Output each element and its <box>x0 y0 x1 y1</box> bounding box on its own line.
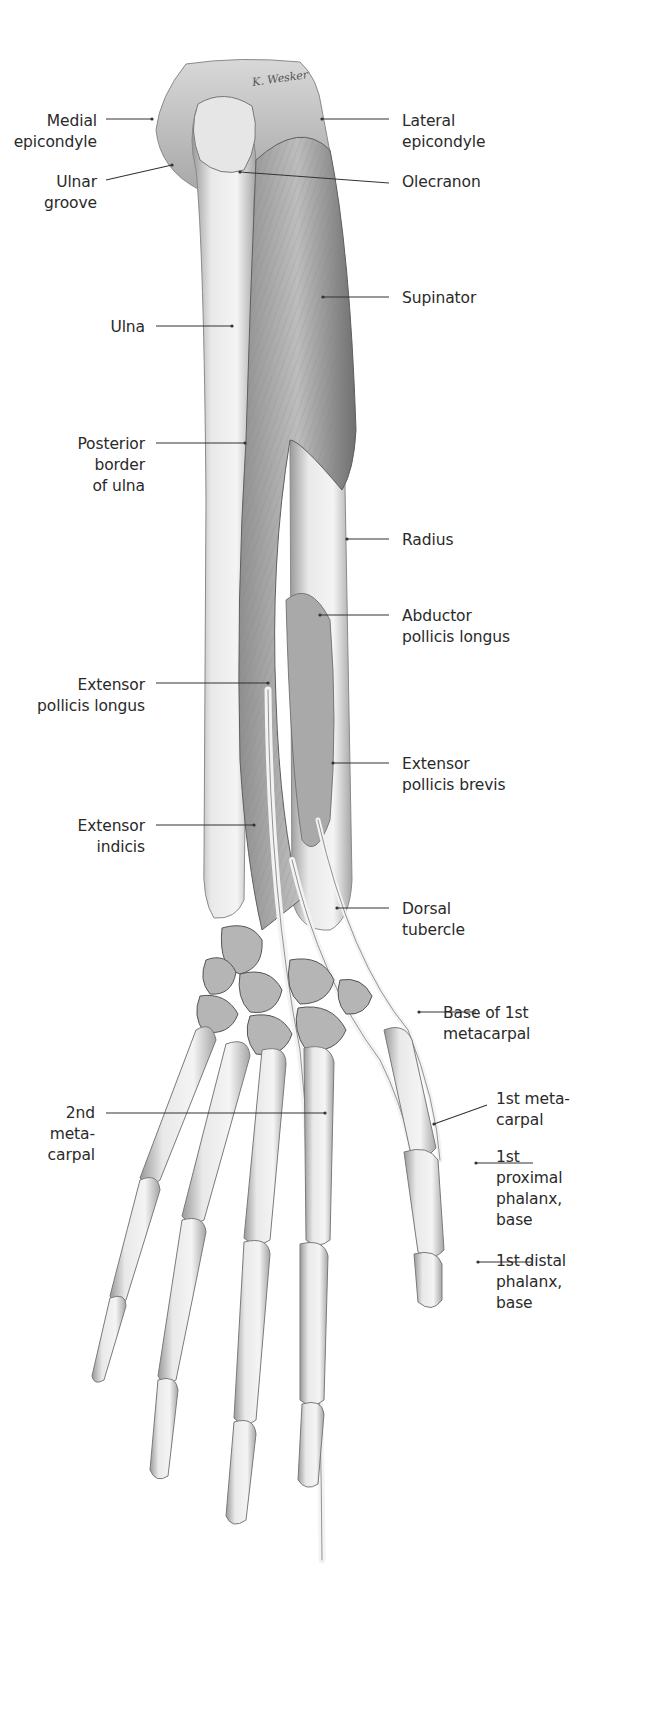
lateral-epicondyle-anchor-dot <box>320 117 323 120</box>
label-base-of-1st-metacarpal: Base of 1st metacarpal <box>443 1003 530 1045</box>
label-ulna: Ulna <box>110 317 145 338</box>
radius-anchor-dot <box>345 537 348 540</box>
1st-proximal-phalanx-base-anchor-dot <box>474 1161 477 1164</box>
base-of-1st-metacarpal-anchor-dot <box>417 1010 420 1013</box>
extensor-pollicis-longus-anchor-dot <box>266 681 269 684</box>
label-ulnar-groove: Ulnar groove <box>44 172 97 214</box>
dorsal-tubercle-anchor-dot <box>335 906 338 909</box>
1st-distal-phalanx-base-anchor-dot <box>476 1260 479 1263</box>
supinator-anchor-dot <box>321 295 324 298</box>
label-extensor-indicis: Extensor indicis <box>77 816 145 858</box>
label-radius: Radius <box>402 530 453 551</box>
1st-metacarpal-leader-line <box>434 1105 487 1124</box>
label-extensor-pollicis-longus: Extensor pollicis longus <box>37 675 145 717</box>
medial-epicondyle-anchor-dot <box>150 117 153 120</box>
label-1st-distal-phalanx-base: 1st distal phalanx, base <box>496 1251 566 1314</box>
1st-metacarpal-anchor-dot <box>432 1122 435 1125</box>
abductor-pollicis-longus-anchor-dot <box>318 613 321 616</box>
posterior-border-of-ulna-anchor-dot <box>243 441 246 444</box>
label-1st-metacarpal: 1st meta- carpal <box>496 1089 570 1131</box>
label-2nd-metacarpal: 2nd meta- carpal <box>48 1103 95 1166</box>
extensor-indicis-anchor-dot <box>252 823 255 826</box>
olecranon-anchor-dot <box>238 170 241 173</box>
ulna-anchor-dot <box>230 324 233 327</box>
label-posterior-border-of-ulna: Posterior border of ulna <box>77 434 145 497</box>
label-1st-proximal-phalanx-base: 1st proximal phalanx, base <box>496 1147 562 1231</box>
ulnar-groove-leader-line <box>106 165 172 180</box>
label-olecranon: Olecranon <box>402 172 481 193</box>
ulnar-groove-anchor-dot <box>170 163 173 166</box>
label-dorsal-tubercle: Dorsal tubercle <box>402 899 465 941</box>
label-abductor-pollicis-longus: Abductor pollicis longus <box>402 606 510 648</box>
label-extensor-pollicis-brevis: Extensor pollicis brevis <box>402 754 506 796</box>
extensor-pollicis-brevis-anchor-dot <box>331 761 334 764</box>
hand-bones <box>92 1027 444 1525</box>
label-medial-epicondyle: Medial epicondyle <box>14 111 97 153</box>
2nd-metacarpal-anchor-dot <box>323 1111 326 1114</box>
label-supinator: Supinator <box>402 288 476 309</box>
label-lateral-epicondyle: Lateral epicondyle <box>402 111 485 153</box>
